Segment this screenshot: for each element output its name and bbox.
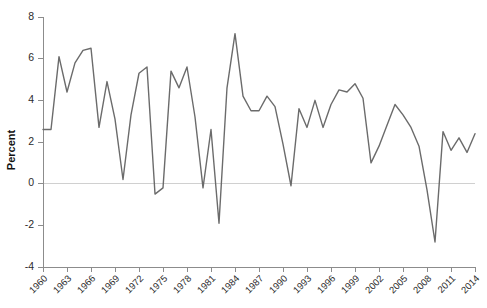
x-tick-label: 1960 [27,273,50,296]
x-tick-label: 1987 [243,273,266,296]
x-tick-label: 1993 [291,273,314,296]
x-tick-label: 1975 [147,273,170,296]
y-tick-label: 2 [28,135,34,147]
x-tick-label: 2011 [435,273,457,295]
x-tick-label: 1984 [219,273,242,296]
x-tick-label: 1996 [315,273,338,296]
x-tick-label: 1963 [51,273,74,296]
x-axis-group: 1960196319661969197219751978198119841987… [27,267,482,295]
x-tick-label: 2008 [411,273,434,296]
y-tick-label: 8 [28,10,34,22]
x-tick-label: 1999 [339,273,362,296]
line-chart-plot: -4-202468 196019631966196919721975197819… [0,0,487,308]
y-axis-group: -4-202468 [25,10,43,272]
x-axis-ticks: 1960196319661969197219751978198119841987… [27,267,482,295]
y-axis-title: Percent [5,129,17,170]
y-tick-label: 0 [28,176,34,188]
y-tick-label: -2 [25,218,34,230]
y-tick-label: 4 [28,93,34,105]
x-tick-label: 2005 [387,273,410,296]
series-group [43,34,475,242]
y-tick-label: 6 [28,51,34,63]
x-tick-label: 1990 [267,273,290,296]
x-tick-label: 1978 [171,273,194,296]
x-tick-label: 1966 [75,273,98,296]
x-tick-label: 1981 [195,273,218,296]
data-series-percent [43,34,475,242]
x-tick-label: 2002 [363,273,386,296]
chart-container: -4-202468 196019631966196919721975197819… [0,0,487,308]
y-tick-label: -4 [25,260,34,272]
x-tick-label: 1972 [123,273,146,296]
y-axis-ticks: -4-202468 [25,10,43,272]
x-tick-label: 1969 [99,273,122,296]
x-tick-label: 2014 [459,273,482,296]
